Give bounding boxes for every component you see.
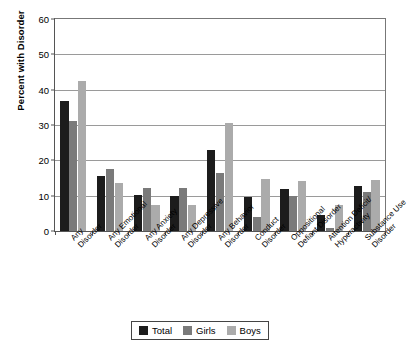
- bar-group: [128, 19, 165, 231]
- y-tick-label: 0: [44, 226, 49, 237]
- bar-group: [165, 19, 202, 231]
- bar-group: [238, 19, 275, 231]
- y-tick-label: 20: [38, 155, 49, 166]
- y-tick-label: 60: [38, 14, 49, 25]
- legend-label-boys: Boys: [240, 325, 261, 336]
- x-tick-mark: [55, 231, 56, 235]
- bar-girls: [289, 196, 297, 231]
- legend-item-boys: Boys: [227, 325, 261, 336]
- bar-girls: [69, 121, 77, 231]
- legend-label-total: Total: [152, 325, 172, 336]
- y-tick-label: 30: [38, 120, 49, 131]
- legend-item-girls: Girls: [183, 325, 216, 336]
- bar-total: [60, 101, 68, 231]
- legend-item-total: Total: [139, 325, 172, 336]
- bar-boys: [78, 81, 86, 231]
- y-axis-title: Percent with Disorder: [15, 0, 26, 136]
- chart-legend: Total Girls Boys: [131, 321, 269, 340]
- bar-group: [275, 19, 312, 231]
- bar-girls: [106, 169, 114, 231]
- y-tick-label: 10: [38, 190, 49, 201]
- legend-swatch-girls: [183, 326, 192, 335]
- legend-swatch-boys: [227, 326, 236, 335]
- y-tick-label: 50: [38, 49, 49, 60]
- y-tick-label: 40: [38, 84, 49, 95]
- legend-label-girls: Girls: [196, 325, 216, 336]
- bar-group: [55, 19, 92, 231]
- legend-swatch-total: [139, 326, 148, 335]
- bar-chart: Percent with Disorder 0102030405060 AnyD…: [0, 0, 416, 361]
- bar-group: [92, 19, 129, 231]
